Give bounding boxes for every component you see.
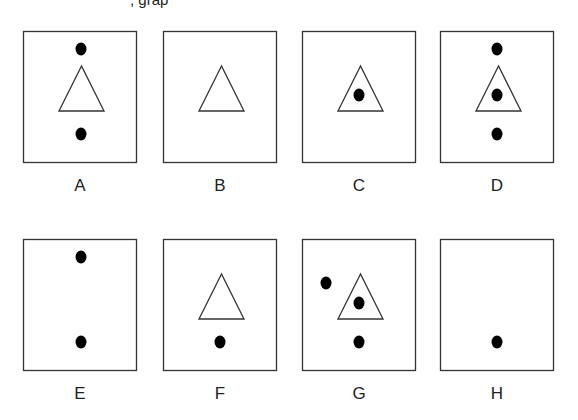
triangle-shape (476, 66, 521, 111)
panel-b: B (164, 32, 277, 196)
panel-g: G (303, 240, 416, 404)
panel-label: D (491, 176, 503, 195)
panel-d: D (441, 32, 554, 196)
panel-c: C (303, 32, 416, 196)
panel-h: H (441, 240, 554, 404)
dot-shape (76, 336, 87, 349)
panel-label: G (352, 384, 365, 403)
dot-shape (492, 89, 503, 102)
panel-label: F (215, 384, 225, 403)
triangle-shape (338, 66, 383, 111)
panel-a: A (24, 32, 137, 196)
dot-shape (321, 277, 332, 290)
dot-shape (76, 43, 87, 56)
triangle-shape (338, 274, 383, 319)
cut-off-instruction-text: , grap (130, 0, 168, 8)
dot-shape (354, 89, 365, 102)
panel-label: E (74, 384, 85, 403)
option-panels-diagram: ABCDEFGH (0, 0, 578, 420)
dot-shape (354, 336, 365, 349)
dot-shape (492, 128, 503, 141)
panel-label: B (214, 176, 225, 195)
panel-label: C (353, 176, 365, 195)
dot-shape (492, 43, 503, 56)
triangle-shape (199, 274, 244, 319)
triangle-shape (59, 66, 104, 111)
panel-f: F (164, 240, 277, 404)
panel-label: H (491, 384, 503, 403)
dot-shape (76, 251, 87, 264)
dot-shape (492, 336, 503, 349)
dot-shape (354, 297, 365, 310)
panel-frame (164, 240, 277, 371)
panel-e: E (24, 240, 137, 404)
panel-frame (441, 240, 554, 371)
dot-shape (215, 336, 226, 349)
panel-label: A (74, 176, 86, 195)
figure: , grap ABCDEFGH (0, 0, 578, 420)
triangle-shape (199, 66, 244, 111)
dot-shape (76, 128, 87, 141)
panel-frame (164, 32, 277, 163)
